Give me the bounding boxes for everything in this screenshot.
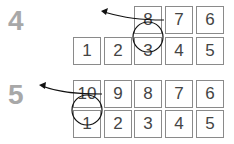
cell: 1	[73, 110, 101, 138]
arrow-head-icon	[39, 82, 46, 89]
cell: 7	[165, 6, 193, 34]
cell: 9	[104, 80, 132, 108]
cell: 5	[196, 37, 224, 65]
cell: 1	[73, 37, 101, 65]
cell: 4	[165, 37, 193, 65]
cell: 4	[165, 110, 193, 138]
cell: 6	[196, 6, 224, 34]
cell: 10	[73, 80, 101, 108]
arrow-head-icon	[101, 8, 108, 15]
cell: 2	[104, 110, 132, 138]
cell: 8	[134, 6, 162, 34]
cell: 8	[134, 80, 162, 108]
cell: 3	[134, 110, 162, 138]
cell: 6	[196, 80, 224, 108]
step-label-4: 4	[8, 7, 24, 35]
cell: 3	[134, 37, 162, 65]
cell: 7	[165, 80, 193, 108]
step-label-5: 5	[8, 81, 24, 109]
cell: 5	[196, 110, 224, 138]
cell: 2	[104, 37, 132, 65]
